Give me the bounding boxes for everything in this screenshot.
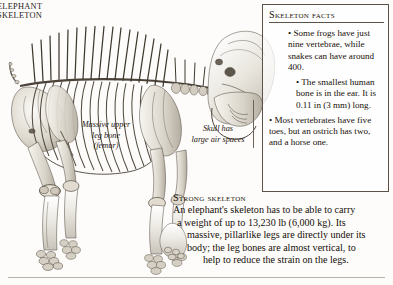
- encyclopedia-page: ELEPHANT SKELETON Massive upper leg bone…: [0, 0, 393, 285]
- strong-skeleton-section: Strong skeleton An elephant's skeleton h…: [173, 192, 391, 267]
- running-head: ELEPHANT SKELETON: [0, 3, 59, 20]
- strong-skeleton-line: a weight of up to 13,230 lb (6,000 kg). …: [173, 217, 391, 230]
- skeleton-fact-item: • Some frogs have just nine vertebrae, w…: [288, 28, 384, 73]
- running-head-line-2: SKELETON: [0, 12, 59, 21]
- caption-skull-line-1: Skull has: [203, 124, 233, 133]
- skeleton-fact-item: • The smallest human bone is in the ear.…: [296, 77, 384, 111]
- caption-femur-line-1: Massive upper: [82, 120, 131, 129]
- skeleton-facts-box: Skeleton facts • Some frogs have just ni…: [262, 4, 389, 192]
- skeleton-facts-title: Skeleton facts: [269, 9, 384, 23]
- caption-femur: Massive upper leg bone (femur): [58, 120, 154, 152]
- page-bottom-rule: [8, 277, 385, 278]
- strong-skeleton-title: Strong skeleton: [173, 192, 391, 203]
- strong-skeleton-line: An elephant's skeleton has to be able to…: [173, 204, 391, 217]
- caption-skull-line-2: large air spaces: [191, 135, 244, 144]
- strong-skeleton-line: body; the leg bones are almost vertical,…: [173, 242, 391, 255]
- skeleton-fact-item: • Most vertebrates have five toes, but a…: [269, 115, 384, 149]
- caption-femur-line-2: leg bone: [92, 131, 120, 140]
- caption-femur-line-3: (femur): [94, 141, 119, 150]
- strong-skeleton-body: An elephant's skeleton has to be able to…: [173, 204, 391, 267]
- strong-skeleton-line: massive, pillarlike legs are directly un…: [173, 229, 391, 242]
- strong-skeleton-line: help to reduce the strain on the legs.: [173, 254, 391, 267]
- caption-skull: Skull has large air spaces: [176, 124, 260, 145]
